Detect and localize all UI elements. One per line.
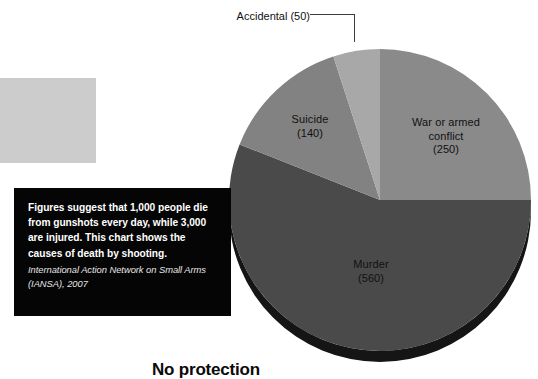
leader-line-vertical [354,14,355,42]
slice-label-suicide-line1: Suicide [274,113,346,127]
slice-label-accidental-value: (50) [290,10,310,22]
slice-label-war-line2: conflict [398,130,494,144]
slice-label-accidental: Accidental (50) [232,10,310,24]
figure-canvas: War or armed conflict (250) Suicide (140… [0,0,538,379]
slice-label-war-line1: War or armed [398,116,494,130]
leader-line-horizontal [310,14,355,15]
accidental-leader-line [310,14,356,42]
slice-label-murder-line1: Murder [330,258,412,272]
slice-label-suicide: Suicide (140) [274,113,346,140]
slice-label-accidental-line1: Accidental [237,10,288,22]
slice-label-war-or-armed-conflict: War or armed conflict (250) [398,116,494,157]
slice-label-war-value: (250) [398,143,494,157]
slice-label-suicide-value: (140) [274,127,346,141]
caption-box: Figures suggest that 1,000 people die fr… [14,188,231,316]
decorative-gray-block [0,78,96,163]
caption-body-text: Figures suggest that 1,000 people die fr… [28,200,217,261]
slice-label-murder: Murder (560) [330,258,412,285]
pie-chart [228,40,532,362]
bottom-section-heading: No protection [152,360,260,379]
slice-label-murder-value: (560) [330,272,412,286]
caption-source-text: International Action Network on Small Ar… [28,263,217,292]
pie-chart-svg [228,40,532,362]
